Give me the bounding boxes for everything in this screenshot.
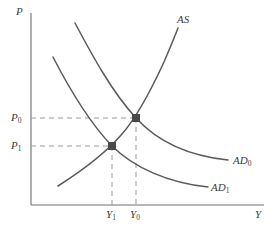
- y1-tick-label: Y1: [106, 209, 116, 220]
- y1-tick-sub: 1: [112, 213, 116, 222]
- ad1-label-sub: 1: [226, 186, 230, 195]
- x-axis-label: Y: [255, 209, 261, 220]
- p1-tick-base: P: [11, 139, 18, 151]
- economics-ad-as-diagram: P Y P0 P1 Y1 Y0 AS AD0 AD1: [0, 0, 275, 249]
- p1-tick-label: P1: [11, 140, 21, 151]
- ad0-label-base: AD: [233, 154, 248, 166]
- p0-tick-base: P: [11, 111, 18, 123]
- ad0-label-sub: 0: [248, 159, 252, 168]
- y0-tick-sub: 0: [136, 213, 140, 222]
- p0-tick-sub: 0: [18, 116, 22, 125]
- y0-tick-label: Y0: [130, 209, 140, 220]
- p1-tick-sub: 1: [18, 144, 22, 153]
- ad0-curve: [75, 23, 228, 160]
- as-curve: [58, 28, 178, 186]
- as-curve-label: AS: [177, 14, 189, 25]
- y-axis-label: P: [16, 6, 23, 17]
- ad0-curve-label: AD0: [233, 155, 251, 166]
- p0-tick-label: P0: [11, 112, 21, 123]
- equilibrium-marker-e0: [132, 114, 140, 122]
- ad1-label-base: AD: [211, 181, 226, 193]
- ad1-curve-label: AD1: [211, 182, 229, 193]
- equilibrium-marker-e1: [108, 142, 116, 150]
